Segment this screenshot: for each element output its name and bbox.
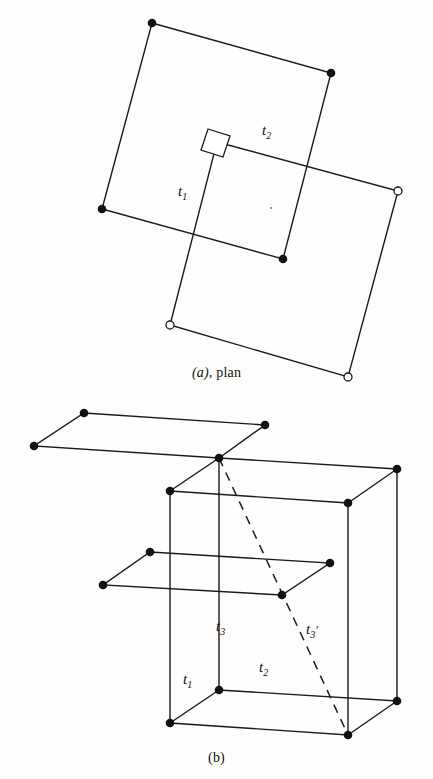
- vertex-open: [166, 321, 174, 329]
- panel-b-box-edge: [348, 701, 397, 735]
- stray-dot: [270, 207, 272, 209]
- vertex-solid: [166, 719, 175, 728]
- panel-a-group: [98, 19, 402, 381]
- panel-b-box-edge: [170, 690, 219, 723]
- vertex-solid: [146, 548, 155, 557]
- vertex-solid: [215, 454, 224, 463]
- label-t3-prime-iso: t3′: [306, 621, 318, 640]
- vertex-solid: [279, 255, 288, 264]
- vertex-solid: [80, 409, 89, 418]
- vertex-solid: [98, 205, 107, 214]
- vertex-solid: [326, 559, 335, 568]
- label-t1-iso: t1: [183, 671, 192, 690]
- figure-root: t1 t2 (a), plan t1 t2 t3 t3′ (b): [0, 0, 433, 779]
- label-t3-iso: t3: [216, 618, 225, 637]
- panel-b-mid-plane: [103, 552, 330, 595]
- panel-b-group: [30, 409, 402, 740]
- vertex-solid: [327, 69, 336, 78]
- vertex-solid: [344, 731, 353, 740]
- vertex-solid: [215, 686, 224, 695]
- panel-a-small-square: [201, 129, 230, 157]
- caption-panel-b: (b): [0, 750, 433, 766]
- vertex-solid: [344, 499, 353, 508]
- vertex-solid: [148, 19, 157, 28]
- label-t1-plan: t1: [178, 183, 187, 202]
- label-t2-iso: t2: [259, 659, 268, 678]
- panel-b-box-edge: [170, 458, 219, 491]
- vertex-open: [394, 187, 402, 195]
- vertex-solid: [261, 421, 270, 430]
- panel-b-top-plane: [34, 413, 265, 458]
- panel-b-box-front-face: [170, 491, 348, 735]
- vertex-solid: [99, 581, 108, 590]
- panel-b-box-edge: [348, 469, 397, 503]
- caption-panel-a: (a), plan: [0, 365, 433, 381]
- vertex-solid: [30, 442, 39, 451]
- vertex-solid: [166, 487, 175, 496]
- figure-canvas: [0, 0, 433, 779]
- label-t2-plan: t2: [262, 122, 271, 141]
- vertex-solid: [393, 465, 402, 474]
- panel-b-box-back-face: [219, 458, 397, 701]
- vertex-solid: [278, 591, 287, 600]
- vertex-solid: [393, 697, 402, 706]
